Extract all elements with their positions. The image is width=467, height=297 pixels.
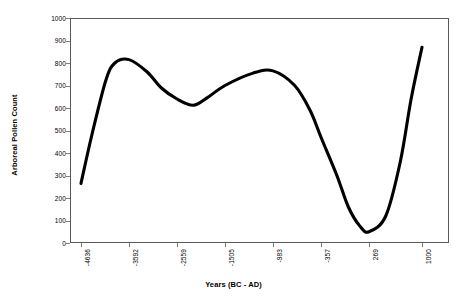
- y-tick-label-300: 300: [34, 172, 66, 179]
- y-tick-mark-700: [66, 86, 70, 87]
- y-tick-label-500: 500: [34, 127, 66, 134]
- y-tick-label-600: 600: [34, 105, 66, 112]
- pollen-count-chart: 1000 900 800 700 600 500 400 300 200 100…: [0, 0, 467, 297]
- y-tick-label-900: 900: [34, 37, 66, 44]
- x-tick-mark-5: [321, 243, 322, 247]
- x-tick-mark-0: [81, 243, 82, 247]
- y-tick-label-0: 0: [34, 240, 66, 247]
- y-tick-label-400: 400: [34, 150, 66, 157]
- y-tick-mark-800: [66, 63, 70, 64]
- x-tick-label-2: -2559: [180, 249, 187, 266]
- y-tick-mark-400: [66, 153, 70, 154]
- x-tick-mark-1: [129, 243, 130, 247]
- y-tick-label-800: 800: [34, 60, 66, 67]
- y-tick-label-1000: 1000: [34, 15, 66, 22]
- x-tick-mark-2: [177, 243, 178, 247]
- x-tick-mark-7: [422, 243, 423, 247]
- y-tick-label-200: 200: [34, 195, 66, 202]
- x-tick-label-7: 1000: [425, 249, 432, 264]
- x-tick-mark-3: [225, 243, 226, 247]
- x-tick-mark-6: [369, 243, 370, 247]
- y-axis-title: Arboreal Pollen Count: [10, 94, 19, 175]
- x-tick-label-4: -983: [276, 249, 283, 262]
- y-tick-mark-0: [66, 243, 70, 244]
- y-tick-mark-300: [66, 176, 70, 177]
- x-tick-label-3: -1505: [228, 249, 235, 266]
- y-tick-label-100: 100: [34, 217, 66, 224]
- y-tick-mark-900: [66, 41, 70, 42]
- pollen-curve: [70, 18, 449, 243]
- y-axis-tick-labels: 1000 900 800 700 600 500 400 300 200 100…: [30, 0, 66, 297]
- x-tick-label-5: -357: [324, 249, 331, 262]
- x-tick-label-0: -4636: [84, 249, 91, 266]
- x-tick-label-6: 269: [372, 249, 379, 260]
- pollen-curve-path: [81, 47, 422, 232]
- x-tick-mark-4: [273, 243, 274, 247]
- y-tick-mark-1000: [66, 18, 70, 19]
- y-tick-mark-100: [66, 221, 70, 222]
- x-axis-title: Years (BC - AD): [0, 280, 467, 289]
- x-tick-label-1: -3592: [132, 249, 139, 266]
- y-tick-mark-200: [66, 198, 70, 199]
- y-tick-mark-600: [66, 108, 70, 109]
- y-tick-label-700: 700: [34, 82, 66, 89]
- y-tick-mark-500: [66, 131, 70, 132]
